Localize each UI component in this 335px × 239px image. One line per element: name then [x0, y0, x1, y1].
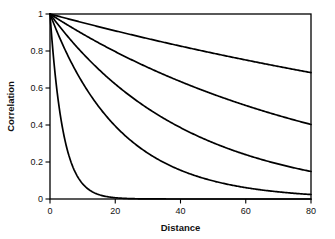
y-tick-label: 1 [38, 9, 43, 19]
y-tick-label: 0.4 [30, 120, 43, 130]
correlation-vs-distance-chart: 020406080 00.20.40.60.81 Distance Correl… [0, 0, 335, 239]
y-tick-label: 0 [38, 194, 43, 204]
x-tick-label: 40 [175, 206, 185, 216]
chart-figure: 020406080 00.20.40.60.81 Distance Correl… [0, 0, 335, 239]
y-tick-label: 0.6 [30, 83, 43, 93]
x-tick-label: 80 [306, 206, 316, 216]
y-tick-label: 0.2 [30, 157, 43, 167]
x-tick-label: 20 [110, 206, 120, 216]
x-tick-label: 60 [241, 206, 251, 216]
y-axis-title: Correlation [5, 81, 16, 132]
y-tick-label: 0.8 [30, 46, 43, 56]
x-tick-label: 0 [47, 206, 52, 216]
x-axis-title: Distance [161, 222, 201, 233]
